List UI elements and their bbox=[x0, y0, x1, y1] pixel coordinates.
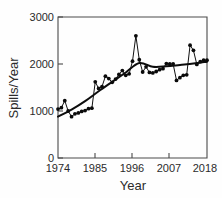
frame-axes-path bbox=[58, 17, 207, 158]
data-point-marker bbox=[131, 59, 135, 63]
data-point-marker bbox=[124, 73, 128, 77]
data-point-marker bbox=[148, 71, 152, 75]
data-point-marker bbox=[114, 77, 118, 81]
plot-frame bbox=[58, 17, 207, 158]
data-point-marker bbox=[195, 63, 199, 67]
data-point-marker bbox=[107, 77, 111, 81]
data-point-marker bbox=[164, 62, 168, 66]
x-axis-title: Year bbox=[120, 178, 147, 193]
data-point-marker bbox=[171, 62, 175, 66]
data-point-marker bbox=[104, 74, 108, 78]
series-group bbox=[56, 34, 209, 119]
data-point-marker bbox=[110, 80, 114, 84]
data-point-marker bbox=[137, 58, 141, 62]
fitted-trend-line bbox=[58, 62, 207, 117]
data-point-marker bbox=[151, 71, 155, 75]
spills-per-year-line-chart: 3000 2000 1000 0 1974 1985 1996 2007 201… bbox=[0, 0, 222, 198]
data-point-marker bbox=[185, 73, 189, 77]
y-tick-label-1000: 1000 bbox=[30, 105, 54, 117]
data-point-marker bbox=[168, 62, 172, 66]
x-tick-label-1985: 1985 bbox=[83, 162, 107, 174]
data-point-marker bbox=[56, 107, 60, 111]
data-point-marker bbox=[90, 106, 94, 110]
data-point-marker bbox=[117, 72, 121, 76]
x-tick-label-1996: 1996 bbox=[120, 162, 144, 174]
x-tick-label-1974: 1974 bbox=[46, 162, 70, 174]
data-point-marker bbox=[141, 70, 145, 74]
data-point-marker bbox=[120, 69, 124, 73]
y-tick-label-3000: 3000 bbox=[30, 11, 54, 23]
x-tick-labels: 1974 1985 1996 2007 2018 bbox=[46, 162, 217, 174]
data-point-marker bbox=[134, 34, 138, 38]
data-point-marker bbox=[188, 43, 192, 47]
data-point-marker bbox=[161, 67, 165, 71]
data-point-marker bbox=[70, 115, 74, 119]
data-point-marker bbox=[73, 112, 77, 116]
data-point-marker bbox=[202, 58, 206, 62]
y-tick-label-2000: 2000 bbox=[30, 58, 54, 70]
data-point-marker bbox=[205, 58, 209, 62]
data-point-marker bbox=[127, 72, 131, 76]
data-point-marker bbox=[178, 76, 182, 80]
data-point-marker bbox=[181, 73, 185, 77]
chart-figure: 3000 2000 1000 0 1974 1985 1996 2007 201… bbox=[0, 0, 222, 198]
x-axis-ticks bbox=[95, 153, 169, 158]
y-tick-labels: 3000 2000 1000 0 bbox=[30, 11, 54, 164]
data-point-marker bbox=[63, 99, 67, 103]
data-point-marker bbox=[175, 79, 179, 83]
data-point-marker bbox=[93, 80, 97, 84]
y-axis-ticks bbox=[58, 17, 63, 158]
data-point-marker bbox=[83, 109, 87, 113]
data-point-marker bbox=[87, 107, 91, 111]
data-point-marker bbox=[80, 110, 84, 114]
data-point-marker bbox=[154, 70, 158, 74]
x-tick-label-2007: 2007 bbox=[157, 162, 181, 174]
x-tick-label-2018: 2018 bbox=[193, 162, 217, 174]
data-point-marker bbox=[76, 111, 80, 115]
data-point-marker bbox=[97, 87, 101, 91]
data-point-marker bbox=[66, 109, 70, 113]
data-point-marker bbox=[59, 106, 63, 110]
data-point-marker bbox=[100, 85, 104, 89]
y-axis-title: Spills/Year bbox=[6, 57, 21, 119]
data-point-marker bbox=[192, 48, 196, 52]
data-point-marker bbox=[198, 60, 202, 64]
data-point-marker bbox=[144, 65, 148, 69]
data-point-marker bbox=[158, 68, 162, 72]
